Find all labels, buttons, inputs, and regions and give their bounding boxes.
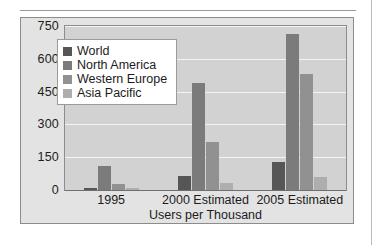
y-axis-tick-label: 750 (38, 19, 59, 33)
legend-item: North America (63, 58, 167, 72)
top-horizontal-rule (20, 10, 356, 11)
legend-item: Western Europe (63, 72, 167, 86)
chart-legend: WorldNorth AmericaWestern EuropeAsia Pac… (57, 39, 177, 105)
x-axis-tick-label: 1995 (64, 193, 158, 207)
bar (300, 74, 313, 190)
bar (220, 183, 233, 190)
legend-swatch-icon (63, 61, 72, 70)
x-axis-labels: 19952000 Estimated2005 Estimated (64, 193, 347, 207)
x-axis-tick-label: 2000 Estimated (158, 193, 252, 207)
x-axis-tick-label: 2005 Estimated (253, 193, 347, 207)
legend-swatch-icon (63, 89, 72, 98)
bar (84, 188, 97, 190)
y-axis-tick-label: 600 (38, 52, 59, 66)
axis-baseline (65, 190, 346, 191)
bar (272, 162, 285, 190)
legend-swatch-icon (63, 75, 72, 84)
bar (178, 176, 191, 190)
y-axis-tick-label: 300 (38, 117, 59, 131)
bar (112, 184, 125, 190)
page-margin-rule (371, 0, 372, 245)
y-axis-tick-label: 450 (38, 85, 59, 99)
bar (206, 142, 219, 190)
bar (98, 166, 111, 190)
legend-item: World (63, 44, 167, 58)
bar (192, 83, 205, 190)
legend-item-label: World (77, 45, 109, 58)
y-axis-tick-label: 0 (52, 183, 59, 197)
bar (286, 34, 299, 190)
x-axis-title: Users per Thousand (64, 208, 347, 222)
bar-group (252, 26, 346, 190)
y-axis-tick-label: 150 (38, 150, 59, 164)
legend-item: Asia Pacific (63, 86, 167, 100)
legend-item-label: Asia Pacific (77, 87, 142, 100)
legend-swatch-icon (63, 47, 72, 56)
chart-figure: 0150300450600750 19952000 Estimated2005 … (20, 17, 354, 224)
legend-item-label: Western Europe (77, 73, 167, 86)
legend-item-label: North America (77, 59, 156, 72)
bar (126, 188, 139, 190)
bar (314, 177, 327, 190)
